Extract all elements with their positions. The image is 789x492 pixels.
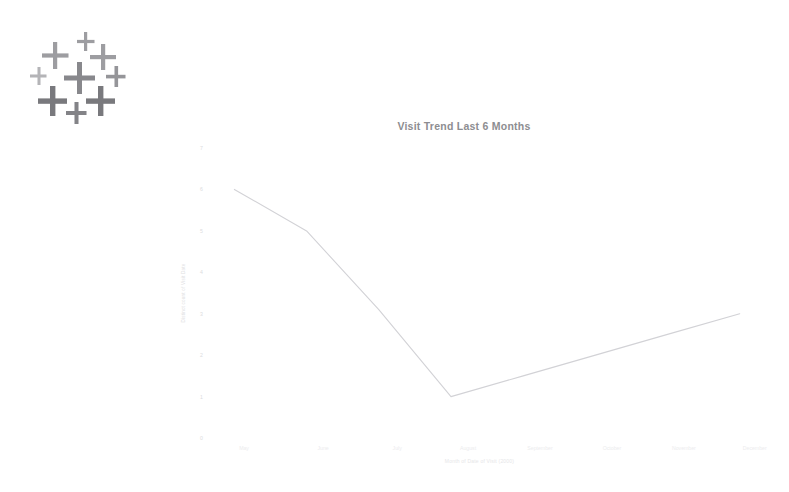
visit-trend-chart: Visit Trend Last 6 Months Distinct count…	[176, 108, 752, 478]
x-tick-label: August	[460, 445, 476, 451]
x-tick-label: September	[527, 445, 552, 451]
x-axis-label: Month of Date of Visit (2000)	[445, 458, 514, 464]
y-tick-label: 2	[200, 352, 203, 358]
cross-cluster-logo	[30, 28, 136, 128]
y-tick-label: 7	[200, 145, 203, 151]
cross-cluster-icon	[30, 28, 136, 128]
line-series	[207, 148, 752, 438]
x-tick-label: November	[672, 445, 696, 451]
x-tick-label: October	[603, 445, 621, 451]
y-tick-label: 0	[200, 435, 203, 441]
x-tick-label: July	[393, 445, 402, 451]
y-tick-label: 4	[200, 269, 203, 275]
y-axis-label: Distinct count of Visit Date	[181, 263, 186, 322]
x-tick-label: May	[239, 445, 249, 451]
x-tick-label: June	[317, 445, 328, 451]
y-tick-label: 3	[200, 311, 203, 317]
plot-area: Distinct count of Visit Date 7 6 5 4 3 2…	[207, 148, 752, 438]
chart-title: Visit Trend Last 6 Months	[176, 120, 752, 132]
x-tick-label: December	[743, 445, 767, 451]
screenshot-canvas: Visit Trend Last 6 Months Distinct count…	[0, 0, 789, 492]
y-tick-label: 1	[200, 394, 203, 400]
y-tick-label: 6	[200, 186, 203, 192]
y-tick-label: 5	[200, 228, 203, 234]
